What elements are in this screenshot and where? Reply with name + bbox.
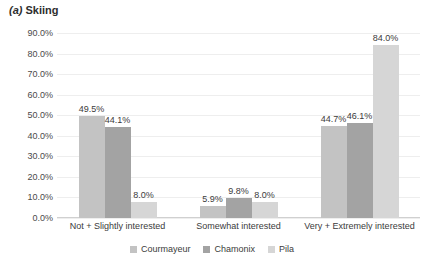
bar-value-label: 44.7% [321,114,347,124]
y-axis-tick-label: 20.0% [1,172,53,182]
y-axis-tick-label: 0.0% [1,213,53,223]
y-axis-tick-label: 80.0% [1,49,53,59]
bar-value-label: 44.1% [105,115,131,125]
legend-item[interactable]: Pila [268,244,294,254]
y-axis-tick-label: 40.0% [1,131,53,141]
x-axis-category-label: Somewhat interested [196,221,281,231]
bar: 8.0% [252,202,278,218]
legend-swatch-icon [130,246,137,253]
y-axis-tick-label: 30.0% [1,151,53,161]
bar: 84.0% [373,45,399,218]
bar-value-label: 46.1% [347,111,373,121]
bar: 49.5% [79,116,105,218]
x-axis-category-label: Very + Extremely interested [304,221,414,231]
bar-value-label: 84.0% [373,33,399,43]
y-axis: 90.0%80.0%70.0%60.0%50.0%40.0%30.0%20.0%… [0,33,53,218]
bar-group: 49.5%44.1%8.0% [79,33,157,218]
y-axis-tick-label: 60.0% [1,90,53,100]
y-axis-tick-label: 10.0% [1,192,53,202]
plot-area: 49.5%44.1%8.0%5.9%9.8%8.0%44.7%46.1%84.0… [57,33,420,218]
bar-group: 5.9%9.8%8.0% [200,33,278,218]
legend-item[interactable]: Chamonix [203,244,255,254]
gridline [57,218,420,219]
bar: 46.1% [347,123,373,218]
bar-value-label: 9.8% [228,186,249,196]
bar: 5.9% [200,206,226,218]
legend-label: Courmayeur [141,244,191,254]
legend-label: Chamonix [214,244,255,254]
bar-group: 44.7%46.1%84.0% [321,33,399,218]
bar: 8.0% [131,202,157,218]
bar-value-label: 5.9% [202,194,223,204]
bar: 44.7% [321,126,347,218]
bar-value-label: 8.0% [133,190,154,200]
legend-swatch-icon [203,246,210,253]
bar: 9.8% [226,198,252,218]
bar-value-label: 49.5% [79,104,105,114]
x-axis-category-label: Not + Slightly interested [70,221,165,231]
legend-swatch-icon [268,246,275,253]
y-axis-tick-label: 70.0% [1,69,53,79]
legend-label: Pila [279,244,294,254]
chart-title-tag: (a) [9,4,22,16]
y-axis-tick-label: 50.0% [1,110,53,120]
bar-value-label: 8.0% [254,190,275,200]
chart-title-text: Skiing [26,4,59,16]
skiing-bar-chart: (a) Skiing 90.0%80.0%70.0%60.0%50.0%40.0… [0,0,424,265]
legend-item[interactable]: Courmayeur [130,244,191,254]
y-axis-tick-label: 90.0% [1,28,53,38]
chart-legend: CourmayeurChamonixPila [0,244,424,254]
bar: 44.1% [105,127,131,218]
chart-title: (a) Skiing [9,4,59,16]
